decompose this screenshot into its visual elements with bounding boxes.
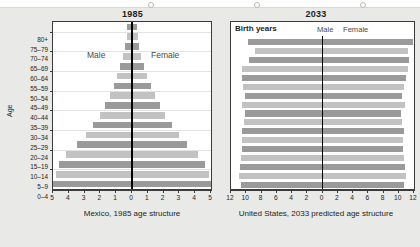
x-tick-label: 2 <box>304 194 308 201</box>
bar-female <box>132 73 147 80</box>
bar-female <box>323 155 405 161</box>
bar-female <box>132 24 137 31</box>
x-tick-label: 4 <box>66 194 70 201</box>
bar-female <box>132 33 138 40</box>
bar-male <box>100 112 132 119</box>
x-tick-label: 0 <box>320 194 324 201</box>
bar-female <box>132 92 155 99</box>
x-tick-label: 5 <box>50 194 54 201</box>
plot-area-left: Male Female <box>52 21 212 190</box>
x-tick-label: 4 <box>192 194 196 201</box>
chart-caption-right: United States, 2033 predicted age struct… <box>216 209 416 218</box>
x-tick-label: 5 <box>208 194 212 201</box>
x-tick-label: 10 <box>242 194 249 201</box>
x-axis-right: 12108642024681012 <box>230 190 415 208</box>
bar-female <box>132 102 160 109</box>
bar-female <box>132 132 179 139</box>
chart-title-left: 1985 <box>52 7 213 21</box>
bar-male <box>242 128 323 134</box>
bar-female <box>132 171 209 178</box>
x-tick-label: 2 <box>98 194 102 201</box>
bar-female <box>132 141 187 148</box>
bar-female <box>132 161 205 168</box>
bar-male <box>56 171 132 178</box>
x-tick-label: 6 <box>274 194 278 201</box>
chart-title-right: 2033 <box>216 7 416 21</box>
x-tick-label: 6 <box>365 194 369 201</box>
x-tick <box>413 190 414 193</box>
x-tick-label: 3 <box>82 194 86 201</box>
bar-male <box>105 102 132 109</box>
category-label: 70–74 <box>30 56 48 62</box>
x-tick-label: 10 <box>394 194 401 201</box>
figure-stage: 1985 Age 80+75–7970–7465–6960–6455–5950–… <box>0 7 420 247</box>
x-tick-label: 12 <box>409 194 416 201</box>
bar-male <box>59 161 132 168</box>
bar-female <box>323 146 404 152</box>
x-tick-label: 2 <box>335 194 339 201</box>
x-tick-label: 1 <box>145 194 149 201</box>
bar-male <box>93 122 132 129</box>
bar-female <box>323 102 405 108</box>
x-tick <box>261 190 262 193</box>
x-tick <box>230 190 231 193</box>
x-tick <box>367 190 368 193</box>
category-label: 25–29 <box>30 145 48 151</box>
bar-female <box>323 39 414 45</box>
x-tick-label: 3 <box>177 194 181 201</box>
x-tick-label: 1 <box>113 194 117 201</box>
category-label: 15–19 <box>30 164 48 170</box>
bar-male <box>248 39 323 45</box>
bar-male <box>242 137 322 143</box>
x-tick <box>276 190 277 193</box>
category-label: 10–14 <box>30 174 48 180</box>
bar-female <box>132 63 144 70</box>
bar-male <box>66 151 132 158</box>
x-tick-label: 4 <box>289 194 293 201</box>
birth-years-header: Birth years <box>235 24 277 33</box>
center-axis-line <box>322 36 323 189</box>
bar-female <box>323 128 405 134</box>
x-tick-label: 0 <box>129 194 133 201</box>
bar-male <box>255 48 323 54</box>
category-label: 40–44 <box>30 115 48 121</box>
bar-male <box>242 146 323 152</box>
bar-male <box>86 132 132 139</box>
x-tick <box>337 190 338 193</box>
x-tick <box>210 190 211 193</box>
category-label: 5–9 <box>37 184 48 190</box>
category-label: 45–49 <box>30 105 48 111</box>
x-tick <box>306 190 307 193</box>
bar-female <box>323 93 402 99</box>
x-tick <box>68 190 69 193</box>
bar-female <box>132 122 172 129</box>
x-tick-label: 12 <box>226 194 233 201</box>
plot-wrapper-right: Birth years Male Female before 19541954–… <box>216 21 416 190</box>
x-tick <box>383 190 384 193</box>
x-tick <box>52 190 53 193</box>
bar-female <box>323 75 406 81</box>
bar-male <box>240 164 322 170</box>
bar-female <box>132 53 141 60</box>
x-tick <box>322 190 323 193</box>
x-tick <box>147 190 148 193</box>
bar-female <box>323 164 405 170</box>
category-label: 60–64 <box>30 76 48 82</box>
bar-male <box>245 110 323 116</box>
bar-male <box>117 73 132 80</box>
bar-male <box>244 119 323 125</box>
bar-female <box>323 173 406 179</box>
bar-female <box>132 151 198 158</box>
bar-male <box>243 84 322 90</box>
male-legend-right: Male <box>317 25 333 34</box>
x-tick <box>291 190 292 193</box>
bar-female <box>323 182 405 188</box>
bar-male <box>241 182 323 188</box>
center-axis-line <box>131 22 132 189</box>
y-axis-labels-left: 80+75–7970–7465–6960–6455–5950–5445–4940… <box>8 35 52 204</box>
bar-female <box>132 83 151 90</box>
category-label: 80+ <box>37 37 48 43</box>
bar-male <box>114 83 132 90</box>
x-tick-label: 8 <box>259 194 263 201</box>
category-label: 50–54 <box>30 96 48 102</box>
